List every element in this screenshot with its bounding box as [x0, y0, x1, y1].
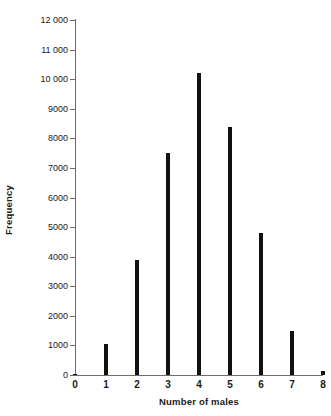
x-axis-tick-label: 8 [313, 379, 331, 390]
y-axis-tick-mark [70, 168, 75, 169]
y-axis-tick-mark [70, 138, 75, 139]
y-axis-tick-mark [70, 375, 75, 376]
bar [73, 374, 77, 375]
y-axis-tick-mark [70, 345, 75, 346]
x-axis-tick-label: 6 [251, 379, 271, 390]
y-axis-tick-label: 6000 [4, 193, 68, 203]
bar [259, 233, 263, 375]
y-axis-tick-label-wrap: 5000 [0, 227, 68, 228]
y-axis-tick-label-wrap: 2000 [0, 316, 68, 317]
x-axis-tick-label: 4 [189, 379, 209, 390]
bar [228, 127, 232, 376]
x-axis-title: Number of males [75, 396, 323, 407]
x-axis-tick-label: 3 [158, 379, 178, 390]
y-axis-tick-label-wrap: 6000 [0, 198, 68, 199]
bar [290, 331, 294, 375]
y-axis-tick-label: 1000 [4, 340, 68, 350]
y-axis-tick-mark [70, 20, 75, 21]
y-axis-tick-mark [70, 257, 75, 258]
y-axis-tick-label-wrap: 12 000 [0, 20, 68, 21]
y-axis-tick-label-wrap: 8000 [0, 138, 68, 139]
y-axis-tick-label-wrap: 4000 [0, 257, 68, 258]
x-axis-tick-label: 2 [127, 379, 147, 390]
bar [197, 73, 201, 375]
bar [104, 344, 108, 375]
y-axis-tick-label: 2000 [4, 311, 68, 321]
bar [321, 371, 325, 375]
y-axis-tick-label: 0 [4, 370, 68, 380]
y-axis-title: Frequency [0, 0, 16, 416]
y-axis-tick-mark [70, 316, 75, 317]
x-axis-tick-label: 0 [65, 379, 85, 390]
y-axis-tick-label: 7000 [4, 163, 68, 173]
y-axis-tick-label-wrap: 0 [0, 375, 68, 376]
y-axis-tick-label-wrap: 1000 [0, 345, 68, 346]
y-axis-tick-label: 4000 [4, 252, 68, 262]
x-axis-line [75, 375, 323, 376]
y-axis-tick-label: 10 000 [4, 74, 68, 84]
x-axis-tick-label: 1 [96, 379, 116, 390]
y-axis-tick-mark [70, 286, 75, 287]
y-axis-tick-mark [70, 50, 75, 51]
bar [135, 260, 139, 375]
y-axis-tick-label: 5000 [4, 222, 68, 232]
frequency-bar-chart: Frequency 010002000300040005000600070008… [0, 0, 331, 416]
y-axis-tick-label-wrap: 11 000 [0, 50, 68, 51]
bar [166, 153, 170, 375]
y-axis-tick-mark [70, 198, 75, 199]
x-axis-tick-label: 5 [220, 379, 240, 390]
y-axis-tick-label-wrap: 10 000 [0, 79, 68, 80]
y-axis-tick-label: 12 000 [4, 15, 68, 25]
y-axis-line [75, 19, 76, 376]
y-axis-tick-label-wrap: 9000 [0, 109, 68, 110]
y-axis-tick-label-wrap: 7000 [0, 168, 68, 169]
y-axis-tick-mark [70, 79, 75, 80]
y-axis-tick-label: 9000 [4, 104, 68, 114]
y-axis-tick-label: 11 000 [4, 45, 68, 55]
y-axis-tick-label: 8000 [4, 133, 68, 143]
y-axis-tick-label: 3000 [4, 281, 68, 291]
y-axis-tick-mark [70, 109, 75, 110]
y-axis-tick-mark [70, 227, 75, 228]
x-axis-tick-label: 7 [282, 379, 302, 390]
y-axis-tick-label-wrap: 3000 [0, 286, 68, 287]
